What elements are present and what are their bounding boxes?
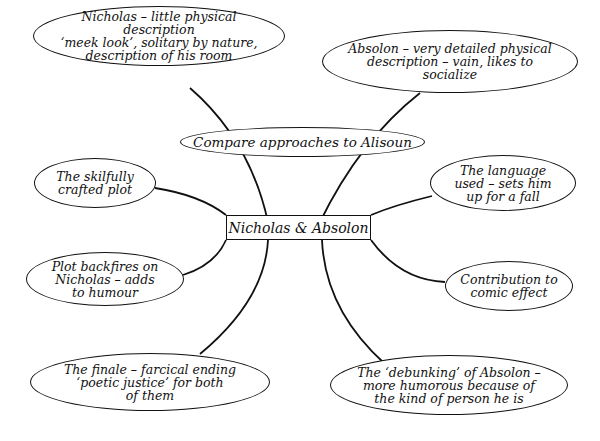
node-label: The finale – farcical ending ‘poetic jus… <box>64 363 236 402</box>
node-label: Contribution to comic effect <box>460 273 557 299</box>
hub-compare-approaches: Compare approaches to Alisoun <box>180 127 425 157</box>
node-language-used: The language used – sets him up for a fa… <box>430 155 576 211</box>
node-crafted-plot: The skilfully crafted plot <box>34 158 156 208</box>
node-label: Nicholas – little physical description ‘… <box>44 10 274 62</box>
node-finale: The finale – farcical ending ‘poetic jus… <box>30 353 270 411</box>
node-label: Plot backfires on Nicholas – adds to hum… <box>52 260 159 299</box>
node-plot-backfires: Plot backfires on Nicholas – adds to hum… <box>26 252 184 306</box>
node-nicholas-description: Nicholas – little physical description ‘… <box>33 6 285 66</box>
node-label: Absolon – very detailed physical descrip… <box>348 42 551 81</box>
center-topic: Nicholas & Absolon <box>226 215 371 240</box>
node-label: The ‘debunking’ of Absolon – more humoro… <box>357 366 541 405</box>
node-label: The language used – sets him up for a fa… <box>454 164 551 203</box>
node-absolon-description: Absolon – very detailed physical descrip… <box>322 30 578 93</box>
node-debunking: The ‘debunking’ of Absolon – more humoro… <box>330 355 568 415</box>
node-comic-effect: Contribution to comic effect <box>445 261 573 311</box>
hub-label: Compare approaches to Alisoun <box>193 136 412 149</box>
center-label: Nicholas & Absolon <box>229 220 369 236</box>
node-label: The skilfully crafted plot <box>56 170 133 196</box>
